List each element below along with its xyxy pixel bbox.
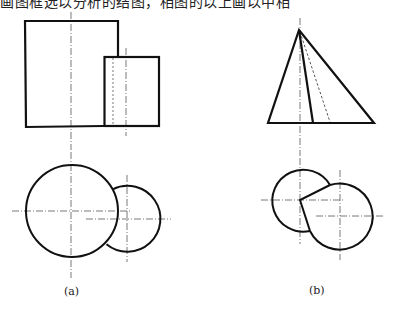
orthographic-projection-diagram xyxy=(0,0,396,311)
figure-b-front-view xyxy=(268,18,374,156)
figure-a-top-view xyxy=(12,152,171,278)
figure-b-label: (b) xyxy=(309,284,325,297)
figure-a-front-view xyxy=(25,12,159,150)
figure-a-label: (a) xyxy=(64,285,79,298)
figure-b-right-circle-arc xyxy=(310,184,373,250)
figure-b-top-view xyxy=(261,158,384,260)
figure-b-radial-lines xyxy=(300,185,330,231)
figure-b-triangle xyxy=(268,30,374,123)
figure-b-hidden-edge xyxy=(300,32,330,122)
